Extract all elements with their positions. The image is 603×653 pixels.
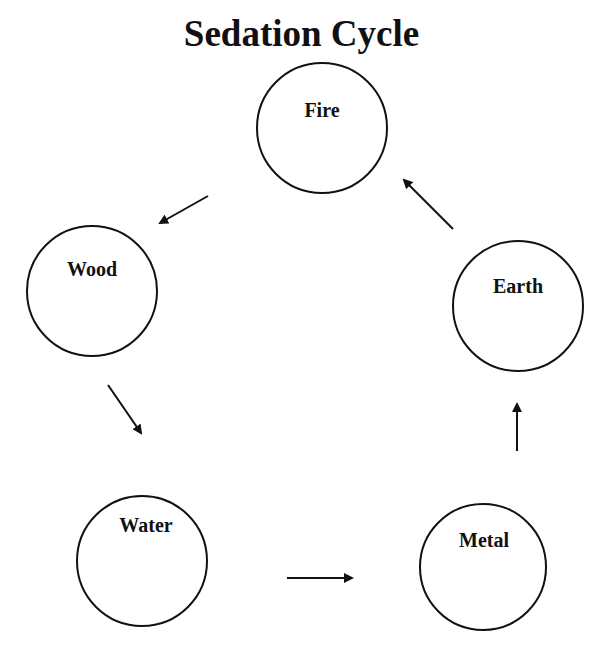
metal-label: Metal — [459, 529, 509, 551]
node-fire: Fire — [257, 63, 387, 193]
sedation-cycle-diagram: Fire Wood Earth Water Metal — [0, 0, 603, 653]
arrow-wood-to-water — [108, 385, 141, 433]
wood-label: Wood — [67, 258, 117, 280]
node-wood: Wood — [27, 226, 157, 356]
water-label: Water — [119, 514, 172, 536]
node-water: Water — [77, 496, 207, 626]
metal-circle — [420, 504, 546, 630]
node-metal: Metal — [420, 504, 546, 630]
fire-circle — [257, 63, 387, 193]
node-earth: Earth — [453, 241, 583, 371]
fire-label: Fire — [304, 99, 339, 121]
earth-circle — [453, 241, 583, 371]
arrow-fire-to-wood — [160, 196, 208, 223]
arrow-earth-to-fire — [404, 180, 453, 229]
wood-circle — [27, 226, 157, 356]
earth-label: Earth — [493, 275, 543, 297]
